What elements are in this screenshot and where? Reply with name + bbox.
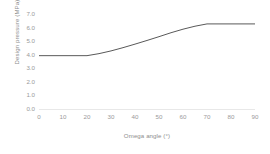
x-tick-label: 70 <box>195 112 219 121</box>
y-axis-tick-labels: 0.01.02.03.04.05.06.07.0 <box>19 14 35 109</box>
plot-area <box>39 14 255 109</box>
x-tick-label: 0 <box>27 112 51 121</box>
x-axis-title: Omega angle (°) <box>39 132 255 140</box>
x-tick-label: 80 <box>219 112 243 121</box>
y-tick-label: 4.0 <box>19 52 35 58</box>
y-tick-label: 7.0 <box>19 11 35 17</box>
y-tick-label: 6.0 <box>19 25 35 31</box>
y-tick-label: 5.0 <box>19 38 35 44</box>
x-tick-label: 90 <box>243 112 267 121</box>
y-tick-label: 3.0 <box>19 65 35 71</box>
x-axis-line <box>39 109 255 110</box>
data-line-svg <box>39 14 255 109</box>
x-tick-label: 50 <box>147 112 171 121</box>
x-tick-label: 60 <box>171 112 195 121</box>
x-tick-label: 40 <box>123 112 147 121</box>
x-tick-label: 10 <box>51 112 75 121</box>
x-axis-tick-labels: 0102030405060708090 <box>39 112 255 122</box>
line-chart: Design pressure (MPa) 0.01.02.03.04.05.0… <box>0 0 270 154</box>
x-tick-label: 20 <box>75 112 99 121</box>
y-tick-label: 2.0 <box>19 79 35 85</box>
x-tick-label: 30 <box>99 112 123 121</box>
y-tick-label: 1.0 <box>19 92 35 98</box>
data-series-line <box>39 24 255 56</box>
